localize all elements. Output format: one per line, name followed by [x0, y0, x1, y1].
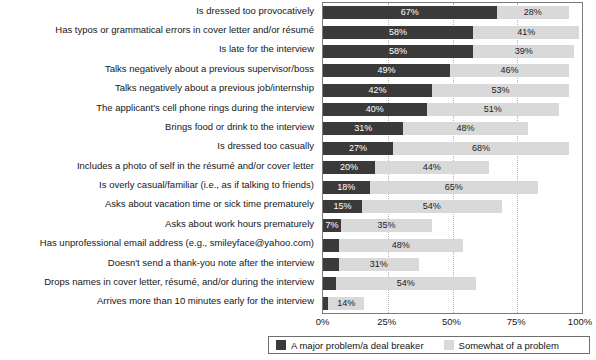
category-label: Is late for the interview	[219, 44, 314, 54]
bar-row: 54%	[323, 277, 582, 290]
bar-value-label: 31%	[354, 124, 372, 133]
bar-segment-major: 40%	[323, 103, 427, 116]
bar-segment-major	[323, 239, 339, 252]
bar-row: 14%	[323, 297, 582, 310]
category-label: Is dressed too provocatively	[196, 6, 314, 16]
bar-segment-somewhat: 46%	[450, 64, 569, 77]
bar-value-label: 65%	[445, 183, 463, 192]
category-label: Talks negatively about a previous job/in…	[115, 83, 314, 93]
category-label: Doesn't send a thank-you note after the …	[108, 258, 314, 268]
bar-value-label: 49%	[377, 66, 395, 75]
bar-segment-major: 49%	[323, 64, 450, 77]
bar-row: 40%51%	[323, 103, 582, 116]
bar-value-label: 54%	[423, 202, 441, 211]
bar-value-label: 20%	[340, 163, 358, 172]
legend-item-major: A major problem/a deal breaker	[276, 340, 424, 351]
bar-segment-somewhat: 41%	[473, 26, 579, 39]
bar-segment-somewhat: 39%	[473, 45, 574, 58]
category-label: Drops names in cover letter, résumé, and…	[44, 277, 314, 287]
bar-value-label: 7%	[326, 221, 339, 230]
bar-segment-major: 58%	[323, 45, 473, 58]
bar-row: 18%65%	[323, 181, 582, 194]
bar-segment-somewhat: 51%	[427, 103, 559, 116]
bar-row: 58%39%	[323, 45, 582, 58]
legend-label-somewhat: Somewhat of a problem	[459, 340, 559, 351]
category-label: Is overly casual/familiar (i.e., as if t…	[99, 180, 314, 190]
legend-swatch-major-icon	[276, 340, 286, 350]
bar-segment-somewhat: 54%	[336, 277, 476, 290]
bar-row: 31%	[323, 258, 582, 271]
bar-value-label: 39%	[515, 47, 533, 56]
bar-segment-major	[323, 258, 339, 271]
bar-segment-somewhat: 65%	[370, 181, 538, 194]
bar-value-label: 68%	[472, 144, 490, 153]
bar-segment-somewhat: 28%	[497, 6, 570, 19]
x-axis: 0%25%50%75%100%	[322, 314, 583, 332]
bar-segment-somewhat: 48%	[403, 122, 527, 135]
bar-value-label: 42%	[368, 86, 386, 95]
stacked-bar-chart: Is dressed too provocativelyHas typos or…	[0, 0, 596, 360]
bar-value-label: 58%	[389, 47, 407, 56]
legend-label-major: A major problem/a deal breaker	[291, 340, 424, 351]
bar-value-label: 35%	[377, 221, 395, 230]
bar-row: 7%35%	[323, 219, 582, 232]
bar-segment-somewhat: 53%	[432, 84, 569, 97]
x-axis-tick-label: 0%	[316, 316, 330, 327]
category-label: Arrives more than 10 minutes early for t…	[97, 296, 314, 306]
category-axis-labels: Is dressed too provocativelyHas typos or…	[0, 2, 318, 314]
bar-segment-somewhat: 54%	[362, 200, 502, 213]
bar-row: 20%44%	[323, 161, 582, 174]
bar-rows: 67%28%58%41%58%39%49%46%42%53%40%51%31%4…	[323, 3, 582, 313]
bar-segment-somewhat: 35%	[341, 219, 432, 232]
bar-value-label: 67%	[401, 8, 419, 17]
bar-value-label: 54%	[397, 279, 415, 288]
bar-value-label: 28%	[524, 8, 542, 17]
bar-value-label: 40%	[366, 105, 384, 114]
bar-row: 42%53%	[323, 84, 582, 97]
category-label: Brings food or drink to the interview	[165, 122, 314, 132]
bar-segment-somewhat: 31%	[339, 258, 419, 271]
category-label: Talks negatively about a previous superv…	[105, 64, 314, 74]
bar-row: 67%28%	[323, 6, 582, 19]
bar-segment-major: 67%	[323, 6, 497, 19]
bar-row: 49%46%	[323, 64, 582, 77]
bar-segment-major: 31%	[323, 122, 403, 135]
bar-value-label: 44%	[423, 163, 441, 172]
category-label: Has typos or grammatical errors in cover…	[55, 25, 314, 35]
bar-segment-somewhat: 68%	[393, 142, 569, 155]
x-axis-tick-label: 100%	[568, 316, 592, 327]
bar-value-label: 27%	[349, 144, 367, 153]
bar-value-label: 18%	[337, 183, 355, 192]
bar-value-label: 53%	[491, 86, 509, 95]
legend-item-somewhat: Somewhat of a problem	[444, 340, 559, 351]
plot-area: 67%28%58%41%58%39%49%46%42%53%40%51%31%4…	[322, 2, 583, 314]
bar-value-label: 46%	[500, 66, 518, 75]
bar-segment-major: 27%	[323, 142, 393, 155]
category-label: Has unprofessional email address (e.g., …	[40, 238, 314, 248]
bar-row: 58%41%	[323, 26, 582, 39]
bar-segment-major: 58%	[323, 26, 473, 39]
chart-legend: A major problem/a deal breaker Somewhat …	[268, 336, 590, 354]
legend-swatch-somewhat-icon	[444, 340, 454, 350]
bar-row: 48%	[323, 239, 582, 252]
bar-value-label: 31%	[370, 260, 388, 269]
bar-segment-somewhat: 48%	[339, 239, 463, 252]
bar-row: 31%48%	[323, 122, 582, 135]
bar-value-label: 58%	[389, 28, 407, 37]
category-label: Is dressed too casually	[217, 141, 314, 151]
bar-segment-somewhat: 44%	[375, 161, 489, 174]
x-axis-tick-label: 25%	[377, 316, 396, 327]
bar-segment-major: 7%	[323, 219, 341, 232]
bar-value-label: 48%	[392, 241, 410, 250]
bar-row: 15%54%	[323, 200, 582, 213]
bar-row: 27%68%	[323, 142, 582, 155]
bar-segment-somewhat: 14%	[328, 297, 364, 310]
category-label: Asks about work hours prematurely	[165, 219, 314, 229]
bar-segment-major	[323, 277, 336, 290]
bar-value-label: 41%	[517, 28, 535, 37]
x-axis-tick-label: 75%	[507, 316, 526, 327]
bar-value-label: 48%	[456, 124, 474, 133]
bar-value-label: 14%	[337, 299, 355, 308]
bar-segment-major: 42%	[323, 84, 432, 97]
bar-segment-major: 20%	[323, 161, 375, 174]
